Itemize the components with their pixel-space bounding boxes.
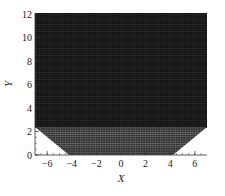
x-tick-label: 2 — [143, 158, 148, 169]
y-tick-label: 10 — [22, 32, 32, 43]
x-tick-label: 6 — [192, 158, 197, 169]
x-axis-title: X — [117, 172, 126, 184]
y-tick-label: 8 — [27, 56, 32, 67]
x-tick-label: −4 — [66, 158, 77, 169]
y-tick-label: 4 — [27, 103, 32, 114]
mesh-lower-region — [35, 127, 207, 155]
x-tick-label: 4 — [168, 158, 173, 169]
y-axis-title: Y — [2, 79, 14, 87]
x-tick-label: 0 — [119, 158, 124, 169]
mesh-chart: 024681012 −6−4−20246 X Y — [0, 0, 225, 196]
mesh-upper-region — [35, 13, 207, 128]
x-tick-label: −2 — [91, 158, 102, 169]
x-axis: −6−4−20246 — [35, 151, 207, 169]
y-tick-label: 0 — [27, 150, 32, 161]
x-tick-label: −6 — [42, 158, 53, 169]
y-tick-label: 2 — [27, 126, 32, 137]
y-tick-label: 12 — [22, 9, 32, 20]
y-tick-label: 6 — [27, 79, 32, 90]
